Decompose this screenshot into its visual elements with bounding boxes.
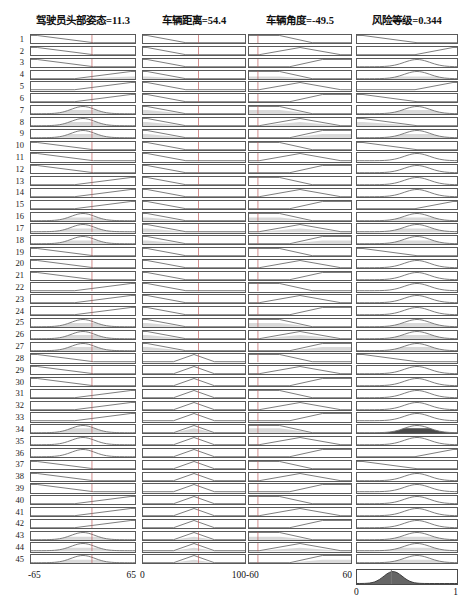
rule-cell-output-risk-level[interactable] xyxy=(356,294,458,304)
rule-cell-input-vehicle-distance[interactable] xyxy=(142,129,246,139)
rule-cell-input-driver-head-pose[interactable] xyxy=(30,271,136,281)
rule-cell-output-risk-level[interactable] xyxy=(356,330,458,340)
rule-cell-output-risk-level[interactable] xyxy=(356,342,458,352)
rule-cell-input-vehicle-distance[interactable] xyxy=(142,342,246,352)
rule-cell-input-vehicle-angle[interactable] xyxy=(248,58,352,68)
rule-cell-input-vehicle-distance[interactable] xyxy=(142,247,246,257)
rule-cell-input-vehicle-angle[interactable] xyxy=(248,424,352,434)
rule-cell-input-vehicle-angle[interactable] xyxy=(248,377,352,387)
rule-cell-input-vehicle-angle[interactable] xyxy=(248,554,352,564)
rule-cell-input-vehicle-distance[interactable] xyxy=(142,365,246,375)
rule-cell-input-vehicle-angle[interactable] xyxy=(248,46,352,56)
rule-cell-input-driver-head-pose[interactable] xyxy=(30,507,136,517)
rule-cell-input-vehicle-angle[interactable] xyxy=(248,412,352,422)
rule-cell-output-risk-level[interactable] xyxy=(356,424,458,434)
rule-cell-input-driver-head-pose[interactable] xyxy=(30,70,136,80)
rule-cell-input-vehicle-distance[interactable] xyxy=(142,235,246,245)
rule-cell-input-driver-head-pose[interactable] xyxy=(30,164,136,174)
rule-cell-input-driver-head-pose[interactable] xyxy=(30,424,136,434)
rule-cell-input-driver-head-pose[interactable] xyxy=(30,353,136,363)
rule-cell-output-risk-level[interactable] xyxy=(356,212,458,222)
rule-cell-input-vehicle-distance[interactable] xyxy=(142,271,246,281)
rule-cell-input-vehicle-distance[interactable] xyxy=(142,353,246,363)
rule-cell-input-vehicle-angle[interactable] xyxy=(248,318,352,328)
rule-cell-input-vehicle-angle[interactable] xyxy=(248,495,352,505)
rule-cell-output-risk-level[interactable] xyxy=(356,105,458,115)
rule-cell-input-driver-head-pose[interactable] xyxy=(30,188,136,198)
rule-cell-output-risk-level[interactable] xyxy=(356,554,458,564)
rule-cell-input-vehicle-angle[interactable] xyxy=(248,176,352,186)
rule-cell-input-vehicle-angle[interactable] xyxy=(248,330,352,340)
rule-cell-input-vehicle-angle[interactable] xyxy=(248,294,352,304)
rule-cell-output-risk-level[interactable] xyxy=(356,282,458,292)
rule-cell-output-risk-level[interactable] xyxy=(356,365,458,375)
rule-cell-output-risk-level[interactable] xyxy=(356,519,458,529)
rule-cell-input-driver-head-pose[interactable] xyxy=(30,93,136,103)
rule-cell-input-vehicle-distance[interactable] xyxy=(142,436,246,446)
rule-cell-output-risk-level[interactable] xyxy=(356,34,458,44)
rule-cell-input-driver-head-pose[interactable] xyxy=(30,472,136,482)
rule-cell-input-vehicle-distance[interactable] xyxy=(142,401,246,411)
rule-cell-input-vehicle-distance[interactable] xyxy=(142,472,246,482)
rule-cell-input-driver-head-pose[interactable] xyxy=(30,259,136,269)
rule-cell-input-vehicle-angle[interactable] xyxy=(248,129,352,139)
rule-cell-input-vehicle-distance[interactable] xyxy=(142,223,246,233)
rule-cell-input-vehicle-distance[interactable] xyxy=(142,330,246,340)
rule-cell-output-risk-level[interactable] xyxy=(356,188,458,198)
rule-cell-input-driver-head-pose[interactable] xyxy=(30,81,136,91)
rule-cell-input-vehicle-distance[interactable] xyxy=(142,141,246,151)
rule-cell-output-risk-level[interactable] xyxy=(356,483,458,493)
rule-cell-output-risk-level[interactable] xyxy=(356,235,458,245)
rule-cell-input-vehicle-angle[interactable] xyxy=(248,235,352,245)
rule-cell-input-driver-head-pose[interactable] xyxy=(30,117,136,127)
rule-cell-input-driver-head-pose[interactable] xyxy=(30,200,136,210)
rule-cell-input-vehicle-angle[interactable] xyxy=(248,389,352,399)
rule-cell-input-vehicle-angle[interactable] xyxy=(248,401,352,411)
rule-cell-input-driver-head-pose[interactable] xyxy=(30,436,136,446)
rule-cell-input-vehicle-angle[interactable] xyxy=(248,70,352,80)
rule-cell-output-risk-level[interactable] xyxy=(356,318,458,328)
rule-cell-input-driver-head-pose[interactable] xyxy=(30,365,136,375)
rule-cell-input-vehicle-angle[interactable] xyxy=(248,141,352,151)
rule-cell-input-driver-head-pose[interactable] xyxy=(30,318,136,328)
rule-cell-input-vehicle-distance[interactable] xyxy=(142,282,246,292)
rule-cell-output-risk-level[interactable] xyxy=(356,223,458,233)
rule-cell-input-vehicle-distance[interactable] xyxy=(142,483,246,493)
rule-cell-input-vehicle-angle[interactable] xyxy=(248,460,352,470)
rule-cell-output-risk-level[interactable] xyxy=(356,93,458,103)
rule-cell-input-vehicle-distance[interactable] xyxy=(142,507,246,517)
rule-cell-input-vehicle-distance[interactable] xyxy=(142,152,246,162)
rule-cell-input-vehicle-angle[interactable] xyxy=(248,483,352,493)
rule-cell-input-vehicle-distance[interactable] xyxy=(142,318,246,328)
rule-cell-input-vehicle-distance[interactable] xyxy=(142,70,246,80)
rule-cell-input-vehicle-angle[interactable] xyxy=(248,542,352,552)
rule-cell-input-vehicle-distance[interactable] xyxy=(142,58,246,68)
rule-cell-output-risk-level[interactable] xyxy=(356,531,458,541)
rule-cell-input-driver-head-pose[interactable] xyxy=(30,282,136,292)
rule-cell-input-driver-head-pose[interactable] xyxy=(30,247,136,257)
rule-cell-input-driver-head-pose[interactable] xyxy=(30,542,136,552)
rule-cell-input-driver-head-pose[interactable] xyxy=(30,412,136,422)
rule-cell-input-vehicle-angle[interactable] xyxy=(248,353,352,363)
rule-cell-input-vehicle-angle[interactable] xyxy=(248,164,352,174)
rule-cell-output-risk-level[interactable] xyxy=(356,247,458,257)
rule-cell-input-vehicle-distance[interactable] xyxy=(142,259,246,269)
rule-cell-input-driver-head-pose[interactable] xyxy=(30,105,136,115)
rule-cell-input-vehicle-distance[interactable] xyxy=(142,495,246,505)
rule-cell-output-risk-level[interactable] xyxy=(356,271,458,281)
rule-cell-output-risk-level[interactable] xyxy=(356,389,458,399)
rule-cell-input-vehicle-distance[interactable] xyxy=(142,377,246,387)
rule-cell-input-vehicle-angle[interactable] xyxy=(248,507,352,517)
rule-cell-input-vehicle-distance[interactable] xyxy=(142,424,246,434)
rule-cell-output-risk-level[interactable] xyxy=(356,117,458,127)
rule-cell-input-vehicle-angle[interactable] xyxy=(248,519,352,529)
rule-cell-input-vehicle-distance[interactable] xyxy=(142,105,246,115)
rule-cell-output-risk-level[interactable] xyxy=(356,58,458,68)
rule-cell-input-driver-head-pose[interactable] xyxy=(30,306,136,316)
rule-cell-input-vehicle-distance[interactable] xyxy=(142,188,246,198)
rule-cell-output-risk-level[interactable] xyxy=(356,176,458,186)
rule-cell-input-driver-head-pose[interactable] xyxy=(30,531,136,541)
rule-cell-input-vehicle-angle[interactable] xyxy=(248,152,352,162)
rule-cell-output-risk-level[interactable] xyxy=(356,448,458,458)
rule-cell-input-vehicle-angle[interactable] xyxy=(248,200,352,210)
